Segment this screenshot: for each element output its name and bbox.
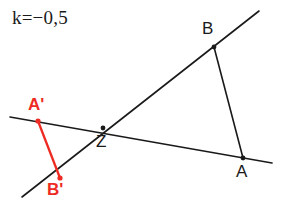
segments-group	[38, 47, 243, 178]
segment-AB	[214, 47, 243, 158]
diagram-canvas: k=−0,5 B A Z A' B'	[0, 0, 286, 224]
dot-A	[241, 156, 246, 161]
dot-Z	[101, 126, 106, 131]
segment-A-prime-B-prime	[38, 121, 60, 178]
point-label-B-prime: B'	[47, 181, 63, 198]
ray-through-A-Z-A-prime	[10, 117, 272, 163]
point-label-A: A	[236, 163, 247, 180]
rays-group	[10, 11, 272, 197]
dot-A-prime	[35, 118, 40, 123]
dot-B	[212, 45, 217, 50]
point-label-Z: Z	[96, 133, 106, 150]
point-label-A-prime: A'	[28, 96, 44, 113]
point-label-B: B	[202, 20, 213, 37]
dots-group	[35, 45, 245, 181]
